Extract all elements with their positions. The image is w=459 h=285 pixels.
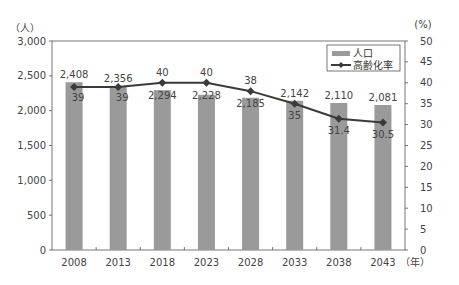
- x-tick-label: 2033: [282, 257, 307, 268]
- line-value-label: 39: [72, 92, 85, 103]
- x-tick-label: 2028: [238, 257, 263, 268]
- diamond-marker-icon: [158, 79, 166, 87]
- population-bar: [242, 98, 259, 250]
- diamond-marker-icon: [202, 79, 210, 87]
- bar-value-label: 2,081: [369, 92, 398, 103]
- bar-value-label: 2,228: [192, 90, 221, 101]
- population-bar: [154, 90, 171, 250]
- left-tick-label: 1,500: [17, 140, 46, 151]
- x-tick-label: 2043: [370, 257, 395, 268]
- x-axis-unit: （年）: [400, 256, 430, 268]
- population-bar: [110, 86, 127, 250]
- legend-aging-rate-label: 高齢化率: [353, 59, 393, 71]
- right-tick-label: 5: [420, 224, 426, 235]
- bar-value-label: 2,408: [60, 69, 89, 80]
- right-axis: 05101520253035404550(%): [405, 19, 433, 256]
- population-bar: [66, 82, 83, 250]
- right-tick-label: 25: [420, 140, 433, 151]
- bar-value-label: 2,356: [104, 73, 133, 84]
- bar-value-label: 2,294: [148, 90, 177, 101]
- left-axis: 05001,0001,5002,0002,5003,000（人）: [10, 23, 52, 256]
- combo-chart: 2,4082,3562,2942,2282,1852,1422,1102,081…: [0, 0, 459, 285]
- line-value-label: 39: [116, 92, 129, 103]
- bar-value-label: 2,110: [324, 90, 353, 101]
- right-tick-label: 10: [420, 203, 433, 214]
- population-bar: [374, 105, 391, 250]
- diamond-marker-icon: [247, 87, 255, 95]
- left-tick-label: 3,000: [17, 36, 46, 47]
- right-tick-label: 0: [420, 245, 426, 256]
- left-tick-label: 0: [40, 245, 46, 256]
- left-axis-unit: （人）: [10, 23, 40, 34]
- line-value-label: 31.4: [328, 125, 350, 136]
- right-tick-label: 45: [420, 56, 433, 67]
- x-tick-label: 2018: [150, 257, 175, 268]
- right-tick-label: 35: [420, 98, 433, 109]
- x-tick-label: 2038: [326, 257, 351, 268]
- legend: 人口 高齢化率: [327, 45, 400, 71]
- bar-value-label: 2,185: [236, 98, 265, 109]
- population-bar: [286, 101, 303, 250]
- population-bar: [198, 95, 215, 250]
- left-tick-label: 2,000: [17, 105, 46, 116]
- right-axis-unit: (%): [414, 19, 431, 30]
- legend-bar-swatch: [332, 51, 350, 56]
- right-tick-label: 40: [420, 77, 433, 88]
- line-value-label: 35: [288, 110, 301, 121]
- line-value-label: 30.5: [372, 129, 394, 140]
- x-tick-label: 2023: [194, 257, 219, 268]
- line-value-label: 40: [156, 67, 169, 78]
- line-value-label: 40: [200, 67, 213, 78]
- x-tick-label: 2013: [105, 257, 130, 268]
- right-tick-label: 50: [420, 36, 433, 47]
- bar-value-label: 2,142: [280, 88, 309, 99]
- left-tick-label: 2,500: [17, 70, 46, 81]
- left-tick-label: 500: [27, 210, 46, 221]
- population-bars: 2,4082,3562,2942,2282,1852,1422,1102,081: [60, 69, 398, 250]
- line-value-label: 38: [244, 75, 257, 86]
- right-tick-label: 30: [420, 119, 433, 130]
- right-tick-label: 15: [420, 182, 433, 193]
- right-tick-label: 20: [420, 161, 433, 172]
- legend-population-label: 人口: [353, 48, 373, 59]
- x-tick-label: 2008: [61, 257, 86, 268]
- left-tick-label: 1,000: [17, 175, 46, 186]
